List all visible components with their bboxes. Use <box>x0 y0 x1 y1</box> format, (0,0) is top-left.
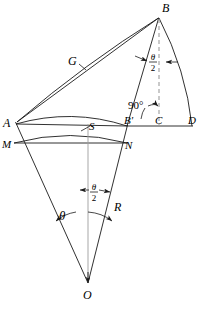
construction-lines <box>14 18 193 283</box>
point-label-D: D <box>187 114 196 126</box>
half-theta-upper-numerator: θ <box>151 52 156 62</box>
point-label-N: N <box>124 139 133 151</box>
label-right-angle-90: 90° <box>128 99 143 111</box>
half-theta-upper-denominator: 2 <box>151 63 156 73</box>
angle-half-theta-upper-arrows <box>135 56 178 62</box>
point-label-C: C <box>155 114 163 126</box>
radius-O-to-Bprime <box>88 125 128 283</box>
point-label-B: B <box>162 1 170 15</box>
radius-O-to-A <box>16 122 89 283</box>
arc-M-to-N <box>14 136 127 144</box>
diagram-canvas: B A B' C D M N O G S R θ 90° θ 2 θ 2 <box>0 0 206 316</box>
label-angle-theta: θ <box>59 208 66 223</box>
label-chord-G: G <box>68 54 77 68</box>
arc-B-to-D <box>159 18 192 126</box>
leader-line-G <box>79 64 86 70</box>
point-label-Bprime: B' <box>124 114 134 126</box>
label-arc-S: S <box>89 120 95 132</box>
point-label-O: O <box>83 288 92 302</box>
half-theta-lower-denominator: 2 <box>92 193 97 203</box>
geometry-diagram: B A B' C D M N O G S R θ 90° θ 2 θ 2 <box>0 0 206 316</box>
label-half-theta-lower: θ 2 <box>90 182 98 203</box>
label-radius-R: R <box>113 200 122 214</box>
label-half-theta-upper: θ 2 <box>149 52 157 73</box>
point-label-A: A <box>2 116 11 130</box>
half-theta-lower-numerator: θ <box>92 182 97 192</box>
point-label-M: M <box>1 138 12 150</box>
line-A-to-Bprime <box>16 124 127 126</box>
